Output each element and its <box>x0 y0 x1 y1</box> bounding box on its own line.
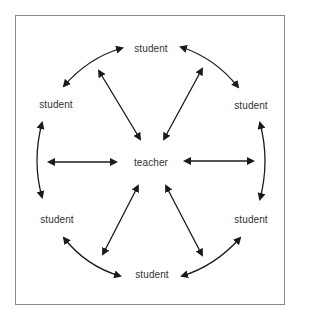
arrow-teacher-top-right <box>164 69 202 139</box>
student-label-bottom: student <box>135 269 169 280</box>
arc-lowerright-bottom <box>182 238 240 276</box>
student-label-upper-right: student <box>234 100 268 111</box>
arrow-teacher-bottom-left <box>103 186 138 254</box>
arc-bottom-lowerleft <box>64 238 120 276</box>
arrow-teacher-top-left <box>99 71 140 139</box>
arrow-teacher-bottom-right <box>166 186 202 255</box>
arc-right <box>260 123 265 199</box>
student-label-upper-left: student <box>39 99 73 110</box>
arc-left <box>37 123 42 197</box>
student-label-lower-left: student <box>40 214 74 225</box>
arc-upperleft-top <box>64 48 122 86</box>
student-label-lower-right: student <box>234 214 268 225</box>
student-label-top: student <box>134 43 168 54</box>
teacher-label: teacher <box>134 157 168 168</box>
arc-top-upperright <box>181 47 238 87</box>
